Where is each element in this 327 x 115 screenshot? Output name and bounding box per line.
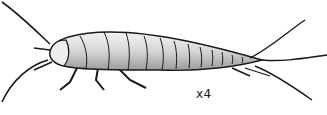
silverfish-illustration [0,0,327,115]
silverfish-drawing [0,0,327,115]
scale-label: x4 [196,87,212,101]
